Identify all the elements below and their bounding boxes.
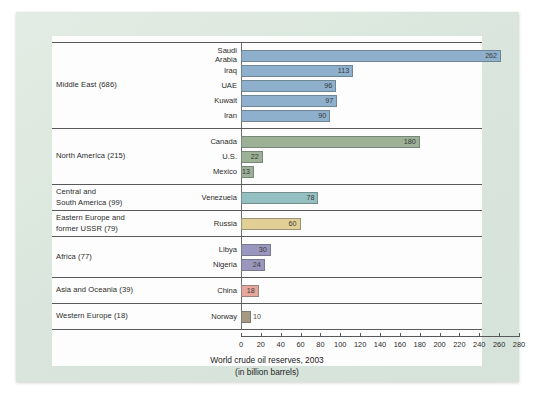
bar-value-label: 90 <box>241 110 326 122</box>
axis-tick <box>340 333 341 337</box>
axis-tick-label: 220 <box>453 340 465 349</box>
bar-plot-area: 262 <box>241 48 482 63</box>
bar-value-label: 180 <box>241 136 416 148</box>
region-rows-container: Middle East (686)Saudi Arabia262Iraq113U… <box>52 42 482 330</box>
axis-tick-label: 200 <box>433 340 445 349</box>
axis-tick <box>281 333 282 337</box>
chart-row: Iran90 <box>168 108 482 123</box>
country-rows: China18 <box>168 283 482 298</box>
chart-row: Russia60 <box>168 216 482 231</box>
region-block: Asia and Oceania (39)China18 <box>52 277 482 303</box>
chart-row: China18 <box>168 283 482 298</box>
axis-tick <box>420 333 421 337</box>
country-label: U.S. <box>168 153 241 161</box>
axis-tick-label: 280 <box>513 340 525 349</box>
region-label: Africa (77) <box>56 237 168 277</box>
chart-row: Libya30 <box>168 242 482 257</box>
country-rows: Canada180U.S.22Mexico13 <box>168 134 482 179</box>
chart-row: Canada180 <box>168 134 482 149</box>
chart-row: UAE96 <box>168 78 482 93</box>
chart-title-line2: (in billion barrels) <box>52 366 482 378</box>
axis-tick-label: 240 <box>473 340 485 349</box>
bar-plot-area: 113 <box>241 63 482 78</box>
country-rows: Saudi Arabia262Iraq113UAE96Kuwait97Iran9… <box>168 48 482 123</box>
bar-plot-area: 180 <box>241 134 482 149</box>
region-block: Western Europe (18)Norway10 <box>52 303 482 329</box>
axis-tick-label: 0 <box>239 340 243 349</box>
bottom-rule <box>52 329 482 330</box>
country-label: China <box>168 287 241 295</box>
country-rows: Libya30Nigeria24 <box>168 242 482 272</box>
axis-tick <box>320 333 321 337</box>
axis-tick-label: 20 <box>257 340 265 349</box>
country-label: UAE <box>168 82 241 90</box>
bar <box>241 311 251 323</box>
axis-tick <box>479 333 480 337</box>
region-label: Asia and Oceania (39) <box>56 278 168 303</box>
bar-plot-area: 13 <box>241 164 482 179</box>
region-block: Africa (77)Libya30Nigeria24 <box>52 236 482 277</box>
bar-value-label: 96 <box>241 80 332 92</box>
country-rows: Venezuela78 <box>168 190 482 205</box>
region-block: Central and South America (99)Venezuela7… <box>52 184 482 210</box>
bar-plot-area: 10 <box>241 309 482 324</box>
bar-plot-area: 24 <box>241 257 482 272</box>
bar-value-label: 97 <box>241 95 333 107</box>
country-label: Russia <box>168 220 241 228</box>
axis-tick <box>360 333 361 337</box>
country-label: Canada <box>168 138 241 146</box>
axis-tick-label: 160 <box>394 340 406 349</box>
axis-tick <box>440 333 441 337</box>
bar-plot-area: 30 <box>241 242 482 257</box>
chart-row: Saudi Arabia262 <box>168 48 482 63</box>
axis-tick <box>241 333 242 337</box>
axis-tick-label: 260 <box>493 340 505 349</box>
region-block: Eastern Europe and former USSR (79)Russi… <box>52 210 482 236</box>
bar-plot-area: 22 <box>241 149 482 164</box>
chart-row: Nigeria24 <box>168 257 482 272</box>
axis-tick <box>499 333 500 337</box>
axis-tick-label: 60 <box>296 340 304 349</box>
bar-value-label: 13 <box>241 166 250 178</box>
region-label: North America (215) <box>56 129 168 184</box>
chart-row: Kuwait97 <box>168 93 482 108</box>
region-block: North America (215)Canada180U.S.22Mexico… <box>52 128 482 184</box>
axis-tick-label: 80 <box>316 340 324 349</box>
country-rows: Norway10 <box>168 309 482 324</box>
axis-tick <box>380 333 381 337</box>
region-label: Eastern Europe and former USSR (79) <box>56 211 168 236</box>
bar-plot-area: 97 <box>241 93 482 108</box>
chart-row: U.S.22 <box>168 149 482 164</box>
screenshot-root: Middle East (686)Saudi Arabia262Iraq113U… <box>0 0 537 399</box>
bar-plot-area: 18 <box>241 283 482 298</box>
country-label: Mexico <box>168 168 241 176</box>
region-label: Middle East (686) <box>56 43 168 128</box>
country-label: Venezuela <box>168 194 241 202</box>
region-label: Central and South America (99) <box>56 185 168 210</box>
chart-panel: Middle East (686)Saudi Arabia262Iraq113U… <box>52 36 482 366</box>
chart-row: Mexico13 <box>168 164 482 179</box>
axis-tick <box>459 333 460 337</box>
bar-value-label: 78 <box>241 192 314 204</box>
bar-value-label: 30 <box>241 244 267 256</box>
bar-value-label: 24 <box>241 259 261 271</box>
chart-title-line1: World crude oil reserves, 2003 <box>210 355 323 365</box>
chart-row: Venezuela78 <box>168 190 482 205</box>
bar-plot-area: 90 <box>241 108 482 123</box>
axis-tick-label: 120 <box>354 340 366 349</box>
axis-tick-label: 180 <box>414 340 426 349</box>
axis-tick <box>301 333 302 337</box>
region-label: Western Europe (18) <box>56 304 168 329</box>
chart-row: Norway10 <box>168 309 482 324</box>
country-label: Saudi Arabia <box>168 47 241 63</box>
country-label: Iraq <box>168 67 241 75</box>
chart-inner: Middle East (686)Saudi Arabia262Iraq113U… <box>52 36 482 366</box>
bar-plot-area: 78 <box>241 190 482 205</box>
axis-tick <box>519 333 520 337</box>
axis-tick <box>261 333 262 337</box>
axis-tick-label: 100 <box>334 340 346 349</box>
region-block: Middle East (686)Saudi Arabia262Iraq113U… <box>52 42 482 128</box>
country-label: Kuwait <box>168 97 241 105</box>
axis-tick <box>400 333 401 337</box>
bar-value-label: 18 <box>241 285 255 297</box>
